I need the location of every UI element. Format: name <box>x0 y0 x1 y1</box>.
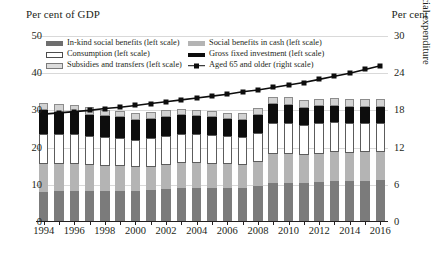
segment-social-benefits-in-cash <box>115 166 124 191</box>
segment-gross-fixed-investment <box>299 108 308 125</box>
x-axis-tick-mark <box>212 222 213 225</box>
segment-in-kind-social-benefits <box>100 191 109 222</box>
segment-gross-fixed-investment <box>146 119 155 138</box>
social-expenditure-chart: Per cent of GDP Per cent Social expendit… <box>0 0 434 256</box>
bar-group <box>345 36 354 222</box>
line-marker <box>118 105 123 110</box>
x-axis-tick-mark <box>181 222 182 225</box>
segment-subsidies-and-transfers <box>131 113 140 120</box>
legend-item-label: In-kind social benefits (left scale) <box>67 39 180 47</box>
segment-gross-fixed-investment <box>207 117 216 134</box>
segment-social-benefits-in-cash <box>238 165 247 188</box>
line-marker <box>347 71 352 76</box>
segment-gross-fixed-investment <box>345 107 354 123</box>
x-axis-tick-label: 2004 <box>186 226 207 237</box>
segment-consumption <box>70 134 79 164</box>
legend-item: Social benefits in cash (left scale) <box>188 39 346 47</box>
segment-social-benefits-in-cash <box>131 167 140 190</box>
legend-item-label: Gross fixed investment (left scale) <box>209 50 324 58</box>
segment-in-kind-social-benefits <box>54 191 63 222</box>
legend-swatch-icon <box>188 63 205 69</box>
segment-consumption <box>268 123 277 154</box>
line-marker <box>332 74 337 79</box>
segment-gross-fixed-investment <box>131 120 140 140</box>
segment-consumption <box>207 135 216 164</box>
segment-in-kind-social-benefits <box>238 188 247 222</box>
segment-gross-fixed-investment <box>70 112 79 134</box>
line-marker <box>194 96 199 101</box>
segment-in-kind-social-benefits <box>146 190 155 222</box>
segment-social-benefits-in-cash <box>70 164 79 191</box>
x-axis-tick-mark <box>59 222 60 225</box>
segment-in-kind-social-benefits <box>161 189 170 222</box>
segment-subsidies-and-transfers <box>192 110 201 117</box>
chart-legend: In-kind social benefits (left scale)Soci… <box>46 38 346 71</box>
segment-gross-fixed-investment <box>284 105 293 124</box>
legend-item: Gross fixed investment (left scale) <box>188 50 346 58</box>
segment-subsidies-and-transfers <box>330 98 339 105</box>
segment-in-kind-social-benefits <box>70 191 79 222</box>
x-axis-tick-label: 2000 <box>125 226 146 237</box>
right-axis-tick-label: 24 <box>394 68 405 79</box>
segment-social-benefits-in-cash <box>330 152 339 181</box>
line-marker <box>378 63 383 68</box>
segment-consumption <box>161 136 170 165</box>
segment-gross-fixed-investment <box>177 115 186 134</box>
legend-item-label: Social benefits in cash (left scale) <box>209 39 322 47</box>
legend-item: Aged 65 and older (right scale) <box>188 61 346 69</box>
segment-consumption <box>299 125 308 155</box>
segment-social-benefits-in-cash <box>192 163 201 188</box>
segment-subsidies-and-transfers <box>345 99 354 106</box>
segment-subsidies-and-transfers <box>376 99 385 106</box>
x-axis-tick-label: 2010 <box>278 226 299 237</box>
x-axis-tick-label: 2006 <box>217 226 238 237</box>
segment-gross-fixed-investment <box>223 119 232 136</box>
segment-social-benefits-in-cash <box>360 152 369 180</box>
segment-gross-fixed-investment <box>192 116 201 134</box>
segment-consumption <box>284 123 293 154</box>
x-axis-tick-mark <box>151 222 152 225</box>
segment-social-benefits-in-cash <box>207 164 216 189</box>
x-axis-tick-label: 2016 <box>370 226 391 237</box>
segment-subsidies-and-transfers <box>207 111 216 118</box>
segment-in-kind-social-benefits <box>115 191 124 222</box>
segment-social-benefits-in-cash <box>253 162 262 186</box>
right-axis-tick-label: 18 <box>394 105 405 116</box>
bar-group <box>360 36 369 222</box>
legend-item: Consumption (left scale) <box>46 50 188 58</box>
legend-item-label: Consumption (left scale) <box>67 50 150 58</box>
segment-social-benefits-in-cash <box>376 152 385 180</box>
x-axis-tick-mark <box>273 222 274 225</box>
segment-in-kind-social-benefits <box>207 188 216 222</box>
line-marker <box>301 80 306 85</box>
segment-consumption <box>85 136 94 165</box>
segment-in-kind-social-benefits <box>131 191 140 222</box>
right-axis-tick-label: 0 <box>394 217 399 228</box>
left-axis-tick-label: 40 <box>32 68 43 79</box>
segment-gross-fixed-investment <box>330 106 339 123</box>
x-axis-tick-label: 2002 <box>156 226 177 237</box>
x-axis-tick-label: 2008 <box>247 226 268 237</box>
legend-item-label: Subsidies and transfers (left scale) <box>67 61 182 69</box>
segment-gross-fixed-investment <box>100 116 109 137</box>
x-axis-tick-label: 1996 <box>64 226 85 237</box>
legend-swatch-icon <box>188 53 205 57</box>
legend-swatch-icon <box>46 52 63 58</box>
left-axis-tick-label: 30 <box>32 105 43 116</box>
segment-in-kind-social-benefits <box>253 186 262 222</box>
segment-gross-fixed-investment <box>85 115 94 137</box>
segment-social-benefits-in-cash <box>299 155 308 183</box>
x-axis-tick-mark <box>120 222 121 225</box>
segment-subsidies-and-transfers <box>314 99 323 106</box>
line-marker <box>87 108 92 113</box>
line-marker <box>363 67 368 72</box>
segment-in-kind-social-benefits <box>376 180 385 222</box>
segment-consumption <box>192 134 201 163</box>
segment-subsidies-and-transfers <box>238 113 247 120</box>
line-marker <box>225 92 230 97</box>
line-marker <box>210 94 215 99</box>
segment-consumption <box>253 133 262 162</box>
segment-in-kind-social-benefits <box>192 188 201 222</box>
right-axis-tick-label: 30 <box>394 31 405 42</box>
segment-social-benefits-in-cash <box>268 154 277 182</box>
